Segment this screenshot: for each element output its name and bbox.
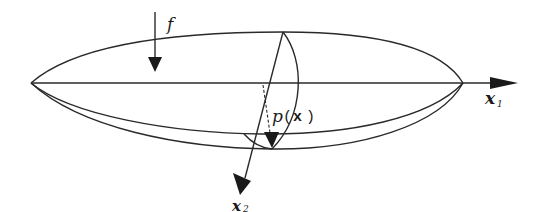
axis-x2-label: x 2 — [231, 197, 249, 212]
diagram-canvas: f p ( x ) x 1 x 2 — [0, 0, 546, 212]
svg-text:1: 1 — [497, 99, 503, 109]
cross-section-arc — [272, 32, 298, 149]
axis-x1-label: x 1 — [484, 88, 503, 109]
upper-ellipse-arc — [31, 32, 463, 83]
dashed-pressure-line — [263, 85, 270, 133]
oblique-axis-x2 — [245, 32, 283, 178]
svg-text:x: x — [484, 88, 496, 108]
svg-text:x: x — [293, 109, 302, 126]
force-arrowhead-icon — [148, 57, 162, 72]
x2-arrowhead-icon — [233, 173, 251, 195]
svg-text:p: p — [272, 106, 283, 126]
svg-text:x: x — [231, 197, 242, 212]
pressure-label: p ( x ) — [272, 106, 315, 126]
outer-lower-arc — [31, 83, 463, 149]
inner-lower-arc — [31, 83, 463, 134]
svg-text:2: 2 — [242, 204, 249, 212]
pressure-arrowhead-icon — [264, 132, 279, 148]
svg-text:(: ( — [283, 109, 292, 126]
svg-text:): ) — [306, 109, 315, 126]
force-label: f — [165, 14, 176, 34]
